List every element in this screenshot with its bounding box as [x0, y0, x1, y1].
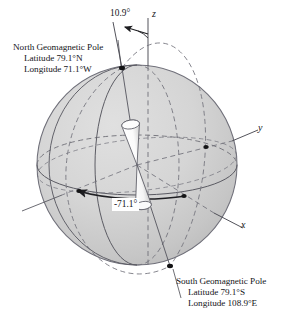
south-pole-title: South Geomagnetic Pole	[176, 276, 266, 287]
axis-label-y: y	[258, 122, 262, 134]
north-geomagnetic-pole-label: North Geomagnetic Pole Latitude 79.1°N L…	[13, 42, 103, 76]
north-geomagnetic-pole-marker	[119, 66, 125, 70]
south-geomagnetic-pole-marker	[167, 264, 173, 268]
tilt-angle-indicator	[125, 27, 148, 38]
declination-angle-label: -71.1°	[112, 198, 139, 211]
north-pole-longitude: Longitude 71.1°W	[13, 64, 103, 75]
north-pole-latitude: Latitude 79.1°N	[13, 53, 103, 64]
equator-marker-left	[76, 189, 81, 193]
south-geomagnetic-pole-label: South Geomagnetic Pole Latitude 79.1°S L…	[176, 276, 266, 310]
tilt-angle-label: 10.9°	[110, 8, 130, 19]
south-pole-longitude: Longitude 108.9°E	[176, 298, 266, 309]
equator-marker-right	[181, 194, 186, 198]
axis-label-x: x	[241, 219, 245, 231]
north-pole-leader-line	[118, 40, 121, 66]
north-pole-title: North Geomagnetic Pole	[13, 42, 103, 53]
south-pole-latitude: Latitude 79.1°S	[176, 287, 266, 298]
axis-label-z: z	[152, 8, 156, 20]
y-axis-surface-marker	[203, 145, 208, 149]
